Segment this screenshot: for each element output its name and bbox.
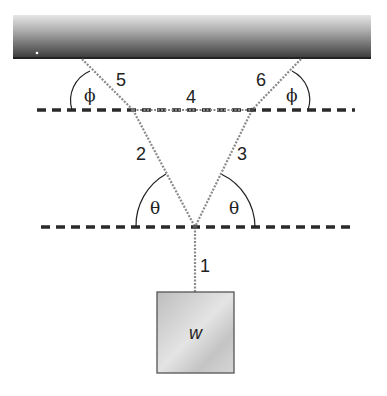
lower-knot — [193, 225, 197, 229]
rope-label-4: 4 — [186, 87, 196, 107]
theta-left-label: θ — [150, 198, 160, 218]
phi-left-label: ϕ — [84, 85, 96, 105]
theta-right-label: θ — [229, 198, 239, 218]
phi-right-label: ϕ — [286, 85, 298, 105]
rope-label-5: 5 — [116, 70, 126, 90]
weight-label: w — [189, 323, 203, 343]
upper-right-knot — [250, 108, 254, 112]
ceiling — [13, 15, 371, 58]
rope-2 — [133, 110, 195, 227]
rope-3 — [195, 110, 252, 227]
rope-equilibrium-diagram: 5 6 4 2 3 1 ϕ ϕ θ θ w — [0, 0, 387, 396]
upper-left-knot — [131, 108, 135, 112]
weight-block: w — [157, 292, 234, 373]
rope-label-6: 6 — [256, 70, 266, 90]
rope-label-3: 3 — [237, 144, 247, 164]
rope-label-2: 2 — [136, 144, 146, 164]
rope-label-1: 1 — [200, 256, 210, 276]
